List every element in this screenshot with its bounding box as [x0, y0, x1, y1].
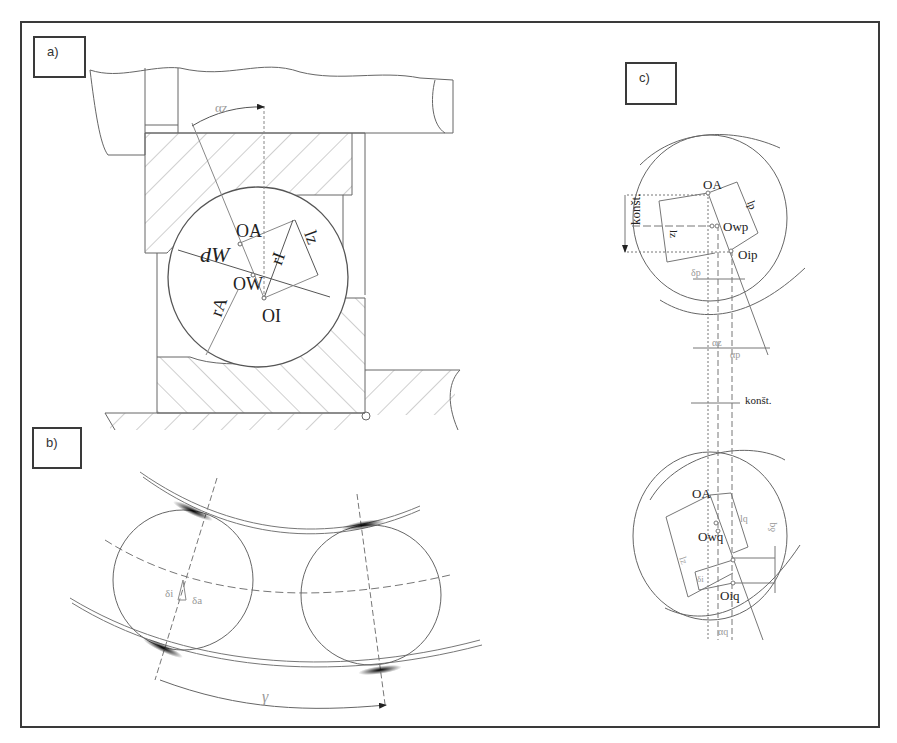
upper-konst-label: konšt. — [628, 194, 643, 225]
lower-lq-label: lq — [740, 513, 748, 524]
lower-oa-label: OA — [692, 486, 711, 501]
lower-oiq-label: Oiq — [720, 588, 740, 603]
lower-delta-q-label: δq — [766, 522, 777, 532]
lower-owq-label: Owq — [698, 529, 724, 544]
panel-c-drawing — [625, 135, 805, 640]
upper-lz-label: lz — [668, 230, 680, 238]
panel-a-drawing — [90, 67, 460, 430]
upper-owp-label: Owp — [723, 219, 748, 234]
panel-b-drawing — [70, 472, 482, 708]
middle-konst-label: konšt. — [745, 394, 772, 406]
center-oi-label: OI — [262, 306, 281, 326]
diagram-canvas: αz OA dW OW OI rI rA lz δi δa γ — [0, 0, 897, 743]
panel-b-labels: δi δa γ — [165, 587, 269, 706]
delta-a-label: δa — [192, 594, 202, 606]
upper-oip-label: Oip — [738, 247, 758, 262]
upper-alpha-p-label: αp — [730, 349, 740, 360]
lower-alpha-q-label: αq — [718, 626, 728, 637]
alpha-z-label: αz — [215, 100, 228, 115]
lower-delta-i-label: δi — [697, 574, 704, 584]
delta-i-label: δi — [165, 587, 173, 599]
gamma-label: γ — [262, 688, 269, 706]
panel-c-labels: OA Owp Oip konšt. lp lz δp αz αp konšt. … — [628, 177, 777, 637]
diameter-dw-label: dW — [200, 242, 231, 267]
center-oa-label: OA — [236, 221, 262, 241]
upper-oa-label: OA — [703, 177, 722, 192]
upper-delta-p-label: δp — [691, 267, 701, 278]
center-ow-label: OW — [233, 274, 263, 294]
upper-alpha-z-label: αz — [712, 337, 722, 348]
upper-lp-label: lp — [745, 199, 759, 212]
